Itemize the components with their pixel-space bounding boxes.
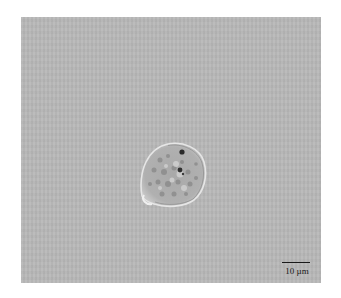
scale-bar-label: 10 µm: [281, 266, 313, 276]
cell: [138, 142, 208, 208]
scale-bar: [282, 262, 310, 263]
micrograph-panel: 10 µm: [21, 17, 321, 283]
